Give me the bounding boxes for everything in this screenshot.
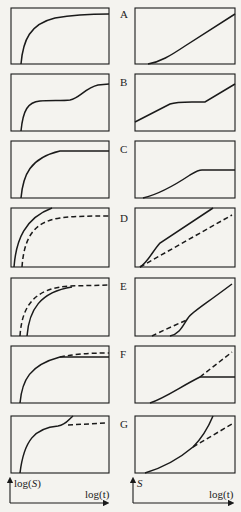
row-label-g: G [120, 418, 128, 430]
panel-e-left [11, 278, 109, 336]
panel-d-left [11, 208, 109, 267]
right-x-axis-label: log(t) [209, 488, 234, 501]
row-label-a: A [120, 8, 128, 20]
panel-c-left [11, 141, 109, 198]
panel-b-left [11, 74, 109, 131]
panel-g-right [135, 416, 235, 473]
panel-g-left [11, 416, 109, 473]
row-label-e: E [120, 280, 127, 292]
diagram-canvas: A B C D E F G log(S) log(t) S log(t) [0, 0, 241, 512]
panel-e-right [135, 278, 235, 336]
panel-f-left [11, 346, 109, 403]
panel-a-left [11, 8, 109, 64]
panel-d-right [135, 208, 235, 267]
row-label-f: F [120, 348, 126, 360]
right-y-axis-label: S [137, 477, 143, 489]
left-x-axis-label: log(t) [85, 488, 110, 501]
panel-f-right [135, 346, 235, 403]
row-label-b: B [120, 76, 127, 88]
left-y-axis-label: log(S) [14, 477, 41, 490]
row-label-d: D [120, 212, 128, 224]
panel-a-right [135, 8, 235, 64]
row-label-c: C [120, 143, 127, 155]
